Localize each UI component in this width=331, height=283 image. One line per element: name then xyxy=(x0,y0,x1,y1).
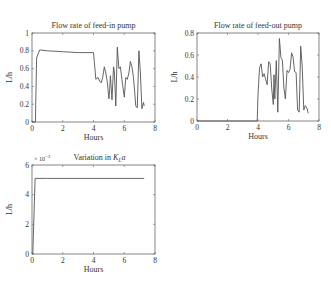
chart-feed-in-pump: 0246800.20.40.60.81Flow rate of feed-in … xyxy=(5,21,157,142)
y-tick-label: 0.4 xyxy=(20,82,30,91)
chart-title: Flow rate of feed-in pump xyxy=(52,21,136,30)
y-tick-label: 0 xyxy=(25,118,29,127)
x-axis-label: Hours xyxy=(84,133,104,142)
y-tick-label: 0.8 xyxy=(20,46,30,55)
data-line xyxy=(197,39,308,122)
y-axis-label: L/h xyxy=(5,204,14,215)
x-tick-label: 8 xyxy=(317,123,321,132)
y-tick-label: 0.2 xyxy=(20,100,30,109)
y-tick-label: 0 xyxy=(25,250,29,259)
y-tick-label: 0 xyxy=(190,117,194,126)
x-tick-label: 8 xyxy=(153,256,157,265)
chart-title: Flow rate of feed-out pump xyxy=(214,21,302,30)
y-multiplier: × 10−3 xyxy=(34,154,51,162)
y-tick-label: 0.8 xyxy=(185,29,195,38)
x-axis-label: Hours xyxy=(84,265,104,274)
x-tick-label: 4 xyxy=(256,123,260,132)
x-axis-label: Hours xyxy=(248,132,268,141)
x-tick-label: 0 xyxy=(30,124,34,133)
x-tick-label: 4 xyxy=(92,256,96,265)
x-tick-label: 2 xyxy=(61,256,65,265)
y-tick-label: 0.6 xyxy=(20,64,30,73)
x-tick-label: 8 xyxy=(153,124,157,133)
y-tick-label: 0.4 xyxy=(185,73,195,82)
y-tick-label: 0.2 xyxy=(185,95,195,104)
figure: 0246800.20.40.60.81Flow rate of feed-in … xyxy=(0,0,331,283)
y-tick-label: 6 xyxy=(25,161,29,170)
y-axis-label: L/h xyxy=(170,71,179,82)
chart-title: Variation in KLa xyxy=(74,153,126,163)
data-line xyxy=(32,178,144,254)
x-tick-label: 2 xyxy=(226,123,230,132)
x-tick-label: 6 xyxy=(122,256,126,265)
x-tick-label: 2 xyxy=(61,124,65,133)
data-line xyxy=(32,47,144,122)
x-tick-label: 6 xyxy=(287,123,291,132)
y-tick-label: 0.6 xyxy=(185,51,195,60)
plot-area xyxy=(32,33,155,122)
y-tick-label: 4 xyxy=(25,190,29,199)
x-tick-label: 0 xyxy=(195,123,199,132)
chart-feed-out-pump: 0246800.20.40.60.8Flow rate of feed-out … xyxy=(170,21,321,141)
x-tick-label: 6 xyxy=(122,124,126,133)
x-tick-label: 0 xyxy=(30,256,34,265)
y-tick-label: 1 xyxy=(25,29,29,38)
chart-kla-variation: 024680246Variation in KLa× 10−3HoursL/h xyxy=(5,153,157,274)
x-tick-label: 4 xyxy=(92,124,96,133)
y-tick-label: 2 xyxy=(25,220,29,229)
y-axis-label: L/h xyxy=(5,72,14,83)
